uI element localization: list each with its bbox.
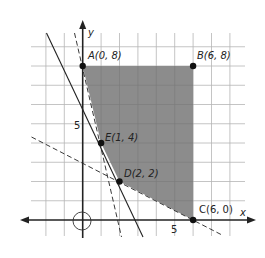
point-A [80, 63, 86, 69]
y-tick-label-5: 5 [74, 120, 80, 131]
x-axis-arrow-left-icon [20, 217, 29, 224]
label-D: D(2, 2) [124, 168, 159, 179]
point-D [116, 178, 122, 184]
feasible-region-figure: x y 5 5 A(0, 8) B(6, 8) C(6, 0) D(2, 2) … [0, 0, 265, 258]
label-A: A(0, 8) [87, 50, 122, 61]
x-axis-label: x [239, 207, 246, 218]
x-tick-label-5: 5 [171, 224, 177, 235]
point-C [190, 217, 196, 223]
label-B: B(6, 8) [197, 50, 231, 61]
x-axis-arrow-right-icon [247, 217, 256, 224]
y-axis-label: y [87, 27, 95, 38]
point-E [98, 140, 104, 146]
point-B [190, 63, 196, 69]
y-axis-arrow-up-icon [79, 20, 86, 29]
label-C: C(6, 0) [199, 204, 233, 215]
label-E: E(1, 4) [105, 132, 138, 143]
